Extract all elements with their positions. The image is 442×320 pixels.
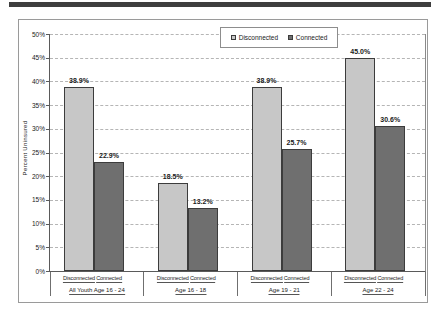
y-axis-tick [46,271,49,272]
y-tick-label: 0% [19,268,45,275]
bar-disconnected [345,58,375,271]
category-separator [50,272,51,296]
group-category-label: All Youth Age 16 - 24 [69,287,125,295]
legend-item-disconnected: Disconnected [231,34,278,41]
y-tick-label: 45% [19,54,45,61]
bar-value-label: 25.7% [271,138,323,148]
category-separator [143,272,144,296]
group-category-label: Age 22 - 24 [363,287,394,295]
y-axis-tick [46,34,49,35]
y-tick-label: 5% [19,244,45,251]
y-tick-label: 40% [19,78,45,85]
connected-swatch-icon [288,35,293,40]
bar-value-label: 22.9% [83,151,135,161]
bar-category-label: Disconnected [250,275,282,283]
y-tick-label: 35% [19,102,45,109]
bar-category-label: Connected [284,275,310,283]
y-axis-tick [46,247,49,248]
y-tick-label: 30% [19,125,45,132]
bar-value-label: 38.9% [53,76,105,86]
disconnected-swatch-icon [231,35,236,40]
bar-category-label: Disconnected [157,275,189,283]
bar-disconnected [64,87,94,271]
page-top-rule [9,2,431,7]
category-separator [237,272,238,296]
document-page: Percent Uninsured 38.9%22.9%18.5%13.2%38… [0,0,442,320]
plot-area: 38.9%22.9%18.5%13.2%38.9%25.7%45.0%30.6% [49,34,426,272]
bar-category-label: Connected [96,275,122,283]
bar-value-label: 13.2% [177,197,229,207]
y-axis-tick [46,81,49,82]
bar-value-label: 18.5% [147,172,199,182]
bar-connected [282,149,312,271]
y-tick-label: 25% [19,149,45,156]
bar-category-label: Connected [190,275,216,283]
chart-legend: Disconnected Connected [220,27,338,48]
chart-frame: Percent Uninsured 38.9%22.9%18.5%13.2%38… [18,19,428,303]
y-axis-tick [46,176,49,177]
bar-value-label: 38.9% [241,76,293,86]
bar-category-label: Disconnected [63,275,95,283]
bar-value-label: 30.6% [364,115,416,125]
legend-item-connected: Connected [288,34,327,41]
category-separator [331,272,332,296]
y-axis-tick [46,153,49,154]
bar-connected [188,208,218,271]
y-axis-tick [46,105,49,106]
bar-category-label: Disconnected [344,275,376,283]
bar-category-label: Connected [377,275,403,283]
legend-label-connected: Connected [296,34,327,41]
y-axis-tick [46,200,49,201]
y-axis-tick [46,129,49,130]
bar-value-label: 45.0% [334,47,386,57]
y-axis-tick [46,224,49,225]
group-category-label: Age 19 - 21 [269,287,300,295]
y-tick-label: 20% [19,173,45,180]
y-tick-label: 10% [19,220,45,227]
category-separator [425,272,426,296]
bar-disconnected [252,87,282,271]
group-category-label: Age 16 - 18 [175,287,206,295]
bar-connected [375,126,405,271]
y-tick-label: 15% [19,196,45,203]
y-axis-tick [46,58,49,59]
legend-label-disconnected: Disconnected [239,34,278,41]
y-tick-label: 50% [19,31,45,38]
bar-connected [94,162,124,271]
